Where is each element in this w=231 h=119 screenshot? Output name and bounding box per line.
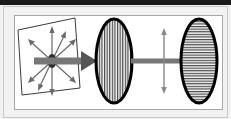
vertical-polarizer — [96, 19, 132, 103]
polarized-beam-shaft — [131, 59, 182, 64]
frame-top-bar — [0, 0, 231, 5]
unpolarized-light-source-group — [18, 18, 80, 96]
incident-beam-shaft — [34, 58, 82, 65]
polarization-diagram-figure — [0, 0, 231, 119]
diagram-canvas — [0, 0, 231, 119]
horizontal-analyzer — [181, 19, 217, 103]
